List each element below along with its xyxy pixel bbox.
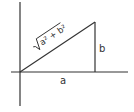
pythagorean-diagram: a b a² + b² [0, 0, 134, 112]
height-label: b [99, 43, 105, 54]
hypotenuse-label: a² + b² [30, 22, 68, 52]
base-label: a [60, 75, 66, 86]
